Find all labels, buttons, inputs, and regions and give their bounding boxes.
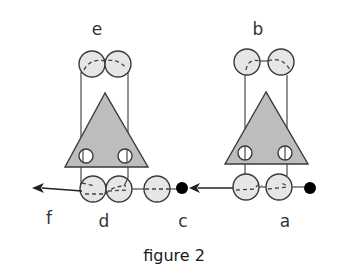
force-arrow-f <box>42 188 82 191</box>
right-top-pulley-2 <box>268 49 294 75</box>
label-a: a <box>280 211 290 231</box>
left-hole-2 <box>118 149 132 163</box>
left-bottom-pulley-2 <box>106 176 132 202</box>
label-f: f <box>46 208 53 228</box>
left-assembly <box>32 51 188 202</box>
left-hole-1 <box>79 149 93 163</box>
label-b: b <box>253 19 264 39</box>
anchor-dot-left <box>176 182 188 194</box>
left-top-pulley-1 <box>79 51 105 77</box>
right-top-pulley-1 <box>234 49 260 75</box>
label-d: d <box>99 211 110 231</box>
left-triangle <box>65 93 148 167</box>
anchor-dot-right <box>304 182 316 194</box>
figure-canvas: e b f d c a figure 2 <box>0 0 340 275</box>
left-top-pulley-2 <box>105 51 131 77</box>
right-bottom-pulley-1 <box>233 174 259 200</box>
right-assembly <box>189 49 316 200</box>
label-e: e <box>92 19 102 39</box>
right-bottom-pulley-2 <box>266 174 292 200</box>
left-bottom-pulley-1 <box>80 176 106 202</box>
figure-caption: figure 2 <box>143 246 205 265</box>
label-c: c <box>178 211 187 231</box>
